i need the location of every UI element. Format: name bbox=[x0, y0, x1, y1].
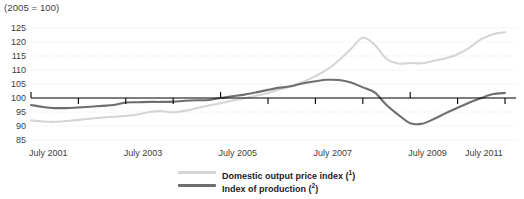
legend-swatch bbox=[178, 184, 216, 187]
legend-item[interactable]: Index of production (2) bbox=[0, 179, 524, 192]
legend-label: Index of production (2) bbox=[222, 179, 318, 196]
y-axis-tick-label: 85 bbox=[2, 135, 26, 145]
y-axis-tick-label: 105 bbox=[2, 79, 26, 89]
legend-item[interactable]: Domestic output price index (1) bbox=[0, 166, 524, 179]
y-axis-tick-label: 110 bbox=[2, 65, 26, 75]
x-axis-tick-label: July 2003 bbox=[124, 148, 163, 158]
x-axis-tick-label: July 2011 bbox=[465, 148, 503, 158]
y-axis-tick-label: 125 bbox=[2, 23, 26, 33]
y-axis-tick-label: 95 bbox=[2, 107, 26, 117]
x-axis-tick-label: July 2007 bbox=[313, 148, 352, 158]
legend-swatch bbox=[178, 171, 216, 174]
chart-plot-area bbox=[0, 0, 524, 160]
y-axis-tick-label: 90 bbox=[2, 121, 26, 131]
legend-footnote-marker: 1 bbox=[349, 169, 353, 176]
x-axis-tick-label: July 2009 bbox=[408, 148, 447, 158]
legend-footnote-marker: 2 bbox=[312, 182, 316, 189]
y-axis-tick-label: 100 bbox=[2, 93, 26, 103]
x-axis-tick-label: July 2005 bbox=[219, 148, 258, 158]
y-axis-tick-label: 115 bbox=[2, 51, 26, 61]
y-axis-tick-label: 120 bbox=[2, 37, 26, 47]
series-line-1 bbox=[31, 32, 505, 122]
x-axis-tick-label: July 2001 bbox=[29, 148, 68, 158]
chart-container: (2005 = 100) 859095100105110115120125 Ju… bbox=[0, 0, 524, 199]
chart-legend: Domestic output price index (1)Index of … bbox=[0, 166, 524, 192]
